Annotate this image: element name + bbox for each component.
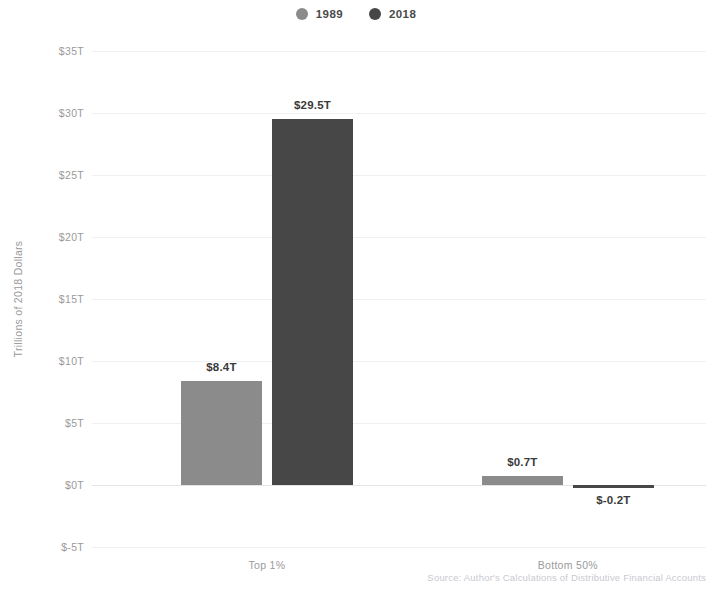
legend-item-2018[interactable]: 2018 xyxy=(369,8,416,20)
bar-chart-figure: 1989 2018 Trillions of 2018 Dollars $35T… xyxy=(0,0,712,604)
x-tick-label: Top 1% xyxy=(249,559,286,571)
plot-area: $8.4T$29.5T$0.7T$-0.2T Top 1%Bottom 50% xyxy=(92,51,706,547)
y-tick-label: $15T xyxy=(0,293,84,305)
gridline-$35T xyxy=(92,51,706,52)
legend-item-1989[interactable]: 1989 xyxy=(296,8,343,20)
gridline-$25T xyxy=(92,175,706,176)
bar-value-label: $29.5T xyxy=(272,99,353,111)
y-tick-label: $30T xyxy=(0,107,84,119)
bar-1989-bottom-50-[interactable] xyxy=(482,476,563,485)
y-tick-label: $5T xyxy=(0,417,84,429)
gridline-$-5T xyxy=(92,547,706,548)
y-tick-label: $-5T xyxy=(0,541,84,553)
legend-label-2018: 2018 xyxy=(389,8,416,20)
bar-value-label: $0.7T xyxy=(482,456,563,468)
y-tick-label: $10T xyxy=(0,355,84,367)
legend-dot-2018-icon xyxy=(369,8,381,20)
legend-dot-1989-icon xyxy=(296,8,308,20)
gridline-$15T xyxy=(92,299,706,300)
y-tick-label: $35T xyxy=(0,45,84,57)
bar-value-label: $-0.2T xyxy=(573,494,654,506)
legend-label-1989: 1989 xyxy=(316,8,343,20)
chart-legend: 1989 2018 xyxy=(0,8,712,20)
source-note: Source: Author's Calculations of Distrib… xyxy=(427,572,706,583)
bar-1989-top-1-[interactable] xyxy=(181,381,262,485)
bar-2018-bottom-50-[interactable] xyxy=(573,485,654,488)
gridline-$30T xyxy=(92,113,706,114)
y-tick-label: $25T xyxy=(0,169,84,181)
bar-2018-top-1-[interactable] xyxy=(272,119,353,485)
y-tick-label: $0T xyxy=(0,479,84,491)
bar-value-label: $8.4T xyxy=(181,361,262,373)
y-tick-label: $20T xyxy=(0,231,84,243)
x-tick-label: Bottom 50% xyxy=(538,559,598,571)
gridline-$20T xyxy=(92,237,706,238)
